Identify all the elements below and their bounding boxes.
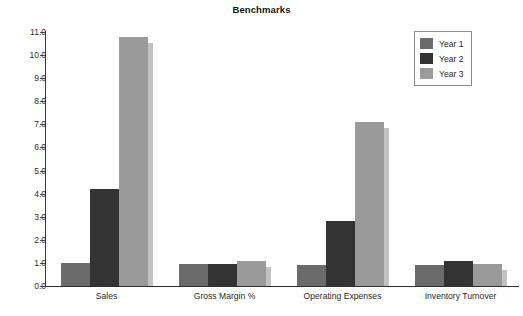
bar[interactable] [237, 261, 266, 286]
chart-legend: Year 1Year 2Year 3 [414, 31, 472, 86]
y-axis-tick-label: 1.0 [8, 258, 46, 268]
x-axis-category-label: Sales [96, 291, 118, 301]
legend-item[interactable]: Year 2 [420, 51, 464, 66]
y-axis-tick-label: 10.0 [8, 50, 46, 60]
bar[interactable] [208, 264, 237, 286]
bar[interactable] [355, 122, 384, 286]
benchmarks-bar-chart: Benchmarks 0.01.02.03.04.05.06.07.08.09.… [0, 0, 523, 316]
bar[interactable] [473, 264, 502, 286]
x-axis-category-label: Operating Expenses [304, 291, 382, 301]
y-axis-tick-label: 5.0 [8, 166, 46, 176]
legend-item-label: Year 3 [439, 69, 464, 79]
legend-swatch-icon [420, 53, 433, 64]
bar[interactable] [444, 261, 473, 286]
y-axis-tick-label: 4.0 [8, 189, 46, 199]
legend-item-label: Year 2 [439, 54, 464, 64]
y-axis-tick-label: 0.0 [8, 281, 46, 291]
bar[interactable] [90, 189, 119, 286]
bar[interactable] [61, 263, 90, 286]
y-axis-tick-label: 7.0 [8, 119, 46, 129]
x-axis-line [45, 286, 519, 287]
y-axis-tick-label: 11.0 [8, 27, 46, 37]
x-axis-category-label: Gross Margin % [194, 291, 256, 301]
bar-shadow [266, 267, 271, 286]
bar-shadow [148, 43, 153, 286]
x-axis-category-label: Inventory Turnover [425, 291, 497, 301]
legend-item-label: Year 1 [439, 39, 464, 49]
legend-swatch-icon [420, 38, 433, 49]
bar-shadow [502, 270, 507, 286]
bar-shadow [384, 128, 389, 286]
legend-item[interactable]: Year 3 [420, 66, 464, 81]
legend-item[interactable]: Year 1 [420, 36, 464, 51]
y-axis-tick-label: 6.0 [8, 142, 46, 152]
chart-title: Benchmarks [0, 4, 523, 15]
y-axis-tick-label: 3.0 [8, 212, 46, 222]
bar[interactable] [119, 37, 148, 286]
y-axis-tick-label: 2.0 [8, 235, 46, 245]
y-axis-tick-label: 9.0 [8, 73, 46, 83]
bar[interactable] [179, 264, 208, 286]
y-axis-tick-label: 8.0 [8, 96, 46, 106]
bar[interactable] [415, 265, 444, 286]
bar[interactable] [297, 265, 326, 286]
bar[interactable] [326, 221, 355, 286]
legend-swatch-icon [420, 68, 433, 79]
